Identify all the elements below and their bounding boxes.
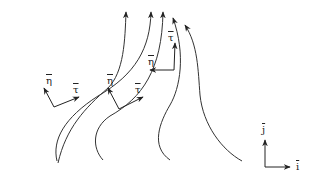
tangent-vector-c — [174, 43, 175, 70]
normal-label-c: η — [148, 57, 154, 67]
tangent-label-c: τ — [168, 33, 174, 43]
tangent-label-a: τ — [73, 85, 79, 95]
tangent-vector-a — [54, 97, 79, 107]
normal-label-a: η — [46, 76, 52, 86]
normal-label-b: η — [107, 76, 113, 86]
tangent-vector-b — [119, 97, 143, 109]
axis-label-i: i — [296, 162, 299, 172]
normal-vector-b — [108, 88, 119, 109]
tangent-label-b: τ — [135, 85, 141, 95]
streamline-1 — [58, 12, 126, 163]
normal-vector-a — [44, 88, 54, 107]
streamline-diagram — [0, 0, 318, 179]
streamline-5 — [185, 25, 242, 161]
axis-label-j: j — [262, 125, 265, 135]
streamline-3 — [95, 12, 163, 160]
